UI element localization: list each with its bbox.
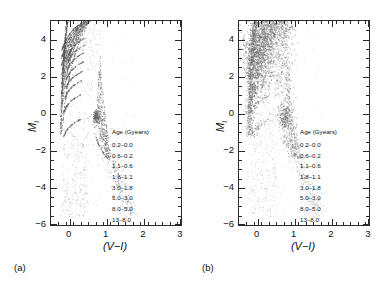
axis-tick [51, 206, 54, 207]
axis-tick [178, 132, 181, 133]
y-tick-label: 0 [24, 107, 46, 118]
axis-tick [366, 169, 369, 170]
axis-tick [366, 95, 369, 96]
axis-tick [51, 132, 54, 133]
axis-tick [58, 21, 59, 24]
legend-entry: 0.2–0.0 [300, 140, 337, 151]
axis-tick [366, 206, 369, 207]
axis-tick [51, 179, 54, 180]
axis-tick [155, 222, 156, 225]
x-tick-label: 3 [172, 228, 188, 239]
axis-tick [239, 151, 245, 152]
axis-tick [178, 104, 181, 105]
axis-tick [363, 224, 369, 225]
axis-tick [178, 30, 181, 31]
axis-tick [175, 188, 181, 189]
axis-tick [239, 169, 242, 170]
axis-tick [70, 21, 71, 27]
axis-tick [366, 160, 369, 161]
axis-tick [125, 21, 126, 24]
axis-tick [254, 222, 255, 225]
axis-tick [291, 21, 292, 24]
axis-tick [258, 21, 259, 27]
axis-tick [366, 197, 369, 198]
cmd-figure: MI (V−I) (a) Age (Gyears) 0.2–0.0 0.6–0.… [0, 0, 385, 284]
y-axis-label-b: MI [214, 121, 228, 132]
axis-tick [51, 95, 54, 96]
axis-tick [366, 123, 369, 124]
axis-tick [51, 197, 54, 198]
legend-entry: 13–8.0 [112, 215, 149, 226]
axis-tick [332, 21, 333, 27]
axis-tick [358, 222, 359, 225]
y-tick-label: −6 [212, 218, 234, 229]
axis-tick [51, 114, 57, 115]
axis-tick [366, 49, 369, 50]
axis-tick [239, 30, 242, 31]
legend-entry: 0.6–0.2 [112, 151, 149, 162]
axis-tick [51, 86, 54, 87]
axis-tick [284, 222, 285, 225]
axis-tick [321, 21, 322, 24]
axis-tick [366, 30, 369, 31]
axis-tick [162, 222, 163, 225]
axis-tick [51, 49, 54, 50]
axis-tick [51, 160, 54, 161]
axis-tick [51, 151, 57, 152]
axis-tick [350, 21, 351, 24]
axis-tick [246, 222, 247, 225]
axis-tick [298, 21, 299, 24]
axis-tick [175, 77, 181, 78]
axis-tick [358, 21, 359, 24]
axis-tick [51, 30, 54, 31]
axis-tick [239, 49, 242, 50]
axis-tick [366, 58, 369, 59]
axis-tick [51, 40, 57, 41]
axis-tick [239, 40, 245, 41]
axis-tick [239, 67, 242, 68]
axis-tick [363, 40, 369, 41]
axis-tick [170, 222, 171, 225]
legend-entry: 8.0–5.0 [300, 204, 337, 215]
axis-tick [51, 188, 57, 189]
axis-tick [366, 86, 369, 87]
axis-tick [254, 21, 255, 24]
axis-tick [175, 151, 181, 152]
legend-entry: 0.2–0.0 [112, 140, 149, 151]
y-tick-label: −2 [24, 144, 46, 155]
x-tick-label: 3 [360, 228, 376, 239]
legend-entry: 3.0–1.8 [112, 183, 149, 194]
axis-tick [328, 21, 329, 24]
axis-tick [51, 123, 54, 124]
axis-tick [246, 21, 247, 24]
x-tick-label: 2 [135, 228, 151, 239]
axis-tick [73, 21, 74, 24]
axis-tick [298, 222, 299, 225]
axis-tick [239, 104, 242, 105]
legend-entry: 3.0–1.8 [300, 183, 337, 194]
axis-tick [81, 222, 82, 225]
axis-tick [239, 114, 245, 115]
legend-title-b: Age (Gyears) [300, 127, 337, 138]
legend-entry: 1.8–1.1 [112, 172, 149, 183]
axis-tick [155, 21, 156, 24]
axis-tick [140, 21, 141, 24]
axis-tick [276, 222, 277, 225]
axis-tick [51, 58, 54, 59]
axis-tick [366, 67, 369, 68]
y-tick-label: 4 [24, 33, 46, 44]
axis-tick [178, 58, 181, 59]
panel-a: MI (V−I) (a) Age (Gyears) 0.2–0.0 0.6–0.… [0, 0, 192, 284]
axis-tick [363, 151, 369, 152]
axis-tick [239, 142, 242, 143]
axis-tick [177, 21, 178, 24]
axis-tick [366, 104, 369, 105]
legend-entry: 13–8.0 [300, 215, 337, 226]
axis-tick [239, 206, 242, 207]
axis-tick [175, 40, 181, 41]
legend-entry: 1.1–0.6 [112, 161, 149, 172]
axis-tick [107, 21, 108, 27]
axis-tick [51, 169, 54, 170]
axis-tick [51, 77, 57, 78]
y-tick-label: −4 [212, 181, 234, 192]
